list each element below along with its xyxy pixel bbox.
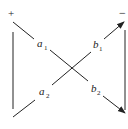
label-a1-base: a: [37, 37, 43, 49]
label-b2: b 2: [91, 82, 101, 97]
crossing-segment-a1-b2: [50, 50, 88, 81]
plus-terminal-label: +: [8, 7, 14, 19]
cross-network-diagram: + − a 1 a 2 b 1 b 2: [0, 0, 128, 129]
label-a2-sub: 2: [46, 92, 50, 100]
b2-arrow: [103, 96, 125, 113]
a1-branch-segment: [13, 22, 34, 39]
label-b2-sub: 2: [97, 89, 101, 97]
label-a2-base: a: [39, 85, 45, 97]
label-a1-sub: 1: [44, 44, 48, 52]
label-a1: a 1: [37, 37, 48, 52]
label-b1-sub: 1: [99, 45, 103, 53]
label-a2: a 2: [39, 85, 50, 100]
label-b1: b 1: [93, 38, 103, 53]
minus-terminal-label: −: [119, 6, 126, 20]
b1-arrow: [104, 22, 124, 39]
a2-branch-segment: [13, 100, 35, 117]
